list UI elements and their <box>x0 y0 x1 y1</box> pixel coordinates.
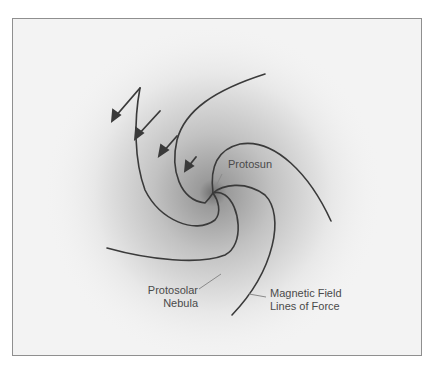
protosolar-nebula-label: Protosolar Nebula <box>140 284 198 310</box>
field-label-line2: Lines of Force <box>270 300 342 313</box>
nebula-diagram <box>0 0 445 375</box>
nebula-label-line1: Protosolar <box>140 284 198 297</box>
protosun-label: Protosun <box>228 158 272 171</box>
magnetic-field-label: Magnetic Field Lines of Force <box>270 287 342 313</box>
field-label-line1: Magnetic Field <box>270 287 342 300</box>
nebula-label-line2: Nebula <box>140 297 198 310</box>
